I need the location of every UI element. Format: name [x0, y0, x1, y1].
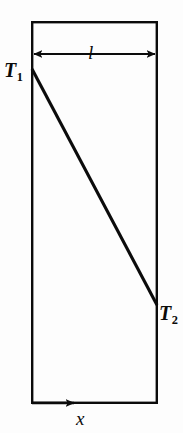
- temperature-profile-line: [32, 69, 157, 305]
- label-t2: T2: [159, 303, 177, 323]
- thermal-conduction-diagram: T1 T2 l x: [0, 0, 183, 433]
- slab-outline: [32, 22, 157, 403]
- diagram-canvas: [0, 0, 183, 433]
- label-t1: T1: [4, 60, 22, 80]
- label-thickness: l: [88, 43, 93, 62]
- label-x-axis: x: [76, 409, 84, 428]
